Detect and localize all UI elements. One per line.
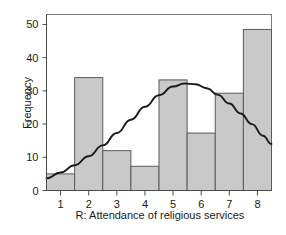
y-axis-title: Frequency (21, 77, 33, 129)
x-tick-label: 6 (198, 198, 204, 210)
y-tick-label: 0 (32, 185, 38, 197)
x-tick-label: 8 (254, 198, 260, 210)
y-tick-label: 10 (26, 151, 38, 163)
x-axis-title: R: Attendance of religious services (76, 209, 245, 221)
x-tick-label: 2 (86, 198, 92, 210)
x-tick-label: 1 (57, 198, 63, 210)
y-tick-label: 50 (26, 18, 38, 30)
histogram-bar (243, 29, 271, 190)
x-tick-label: 7 (226, 198, 232, 210)
histogram-figure: 01020304050 12345678 Frequency R: Attend… (0, 0, 286, 235)
histogram-bar (159, 80, 187, 191)
histogram-bar (215, 93, 243, 190)
x-tick-label: 5 (170, 198, 176, 210)
y-tick-label: 40 (26, 52, 38, 64)
x-tick-label: 4 (142, 198, 148, 210)
histogram-bar (103, 151, 131, 191)
histogram-bar (75, 78, 103, 191)
x-tick-label: 3 (114, 198, 120, 210)
histogram-bar (187, 133, 215, 190)
histogram-bar (131, 166, 159, 190)
